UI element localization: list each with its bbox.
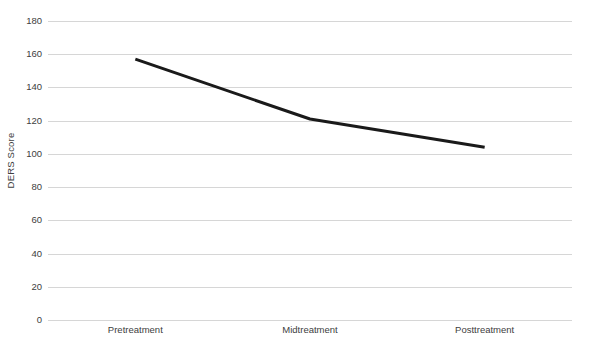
y-axis-tick-label: 120 (0, 116, 42, 126)
y-axis-tick-label: 140 (0, 83, 42, 93)
x-axis-tick-labels: PretreatmentMidtreatmentPosttreatment (48, 325, 572, 345)
plot-area (48, 21, 572, 320)
y-axis-tick-label: 180 (0, 16, 42, 26)
series-line-ders-score (135, 59, 484, 147)
y-axis-tick-label: 0 (0, 315, 42, 325)
x-axis-tick-label: Pretreatment (108, 325, 163, 335)
y-axis-tick-label: 160 (0, 49, 42, 59)
series-line-chart (48, 21, 572, 320)
x-axis-tick-label: Midtreatment (282, 325, 337, 335)
y-axis-tick-label: 40 (0, 249, 42, 259)
line-chart: DERS Score 020406080100120140160180 Pret… (0, 0, 603, 360)
gridline (48, 320, 572, 321)
y-axis-tick-label: 60 (0, 216, 42, 226)
y-axis-tick-label: 80 (0, 182, 42, 192)
y-axis-tick-labels: 020406080100120140160180 (0, 0, 42, 360)
y-axis-tick-label: 20 (0, 282, 42, 292)
y-axis-tick-label: 100 (0, 149, 42, 159)
x-axis-tick-label: Posttreatment (455, 325, 514, 335)
